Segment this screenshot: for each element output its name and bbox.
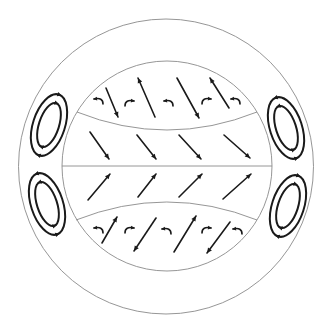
- flow-arrow-upper-band: [177, 78, 199, 118]
- flow-arrows: [88, 78, 251, 253]
- curl-arrow-left: [230, 97, 240, 104]
- curl-arrow-right: [202, 97, 212, 104]
- vortex-upper-right: [260, 91, 312, 166]
- curl-arrows: [93, 97, 242, 234]
- arrow-shaft: [223, 174, 251, 199]
- flow-arrow-lower-middle: [88, 174, 110, 200]
- vortex-lower-left: [21, 167, 73, 242]
- flow-arrow-upper-middle: [179, 135, 201, 159]
- arrow-shaft: [207, 222, 230, 253]
- flow-arrow-lower-band: [134, 218, 156, 251]
- arrow-shaft: [174, 216, 196, 252]
- arrow-shaft: [224, 135, 250, 158]
- vortex-inner-ring: [269, 103, 302, 153]
- curl-arrow-right: [125, 99, 135, 106]
- curl-arrow-left: [161, 227, 171, 234]
- vortex-outer-ring: [263, 171, 313, 242]
- flow-arrow-upper-band: [138, 78, 155, 117]
- flow-arrow-lower-band: [174, 216, 196, 252]
- curl-arrow-left: [163, 99, 173, 106]
- vortex-outer-ring: [261, 93, 311, 164]
- vortex-lower-right: [262, 169, 314, 244]
- flow-arrow-lower-middle: [138, 174, 156, 197]
- flow-arrow-upper-middle: [137, 135, 156, 159]
- flow-arrow-upper-band: [210, 78, 229, 108]
- arrow-shaft: [210, 78, 229, 108]
- curl-arrow-right: [125, 226, 135, 233]
- vortex-inner-ring: [30, 179, 63, 229]
- vortex-outer-ring: [22, 169, 72, 240]
- flow-arrow-lower-band: [102, 217, 117, 243]
- outer-circle: [19, 19, 314, 314]
- curl-arrow-right: [202, 226, 212, 233]
- flow-arrow-lower-middle: [223, 174, 251, 199]
- vortex-inner-ring: [32, 100, 65, 150]
- arrow-shaft: [177, 78, 199, 118]
- flow-arrow-lower-middle: [179, 174, 202, 197]
- flow-arrow-lower-band: [207, 222, 230, 253]
- vortices: [21, 88, 314, 244]
- flow-arrow-upper-middle: [90, 132, 109, 159]
- curl-arrow-left: [232, 227, 242, 234]
- curl-arrow-left: [93, 226, 103, 233]
- arrow-shaft: [88, 174, 110, 200]
- vortex-outer-ring: [24, 90, 74, 161]
- arrow-shaft: [138, 78, 155, 117]
- flow-arrow-upper-middle: [224, 135, 250, 158]
- lower-divider-curve: [76, 202, 257, 220]
- curl-arrow-left: [93, 97, 103, 104]
- flow-arrow-upper-band: [106, 88, 118, 117]
- vortex-inner-ring: [271, 181, 304, 231]
- vortex-upper-left: [23, 88, 75, 163]
- circulation-diagram: [0, 0, 331, 329]
- arrow-shaft: [134, 218, 156, 251]
- upper-divider-curve: [77, 112, 257, 130]
